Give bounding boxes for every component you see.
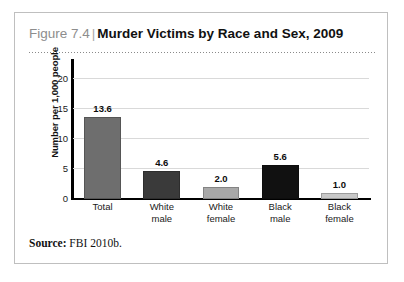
x-tick-label: Blackfemale [310,201,369,224]
title-divider [29,52,375,53]
x-tick-label: Blackmale [251,201,310,224]
bar-group[interactable]: 2.0 [191,59,250,199]
x-tick-label: Whitemale [132,201,191,224]
page-title: Figure 7.4|Murder Victims by Race and Se… [29,25,375,42]
bar[interactable] [262,165,299,199]
figure-header: Figure 7.4|Murder Victims by Race and Se… [29,25,375,42]
bar-group[interactable]: 13.6 [73,59,132,199]
bar-value-label: 4.6 [155,158,168,168]
bar-value-label: 5.6 [274,152,287,162]
bar-value-label: 2.0 [214,174,227,184]
x-axis-labels: TotalWhitemaleWhitefemaleBlackmaleBlackf… [73,201,369,224]
bar-value-label: 1.0 [333,180,346,190]
figure-box: Figure 7.4|Murder Victims by Race and Se… [14,12,388,264]
bar-group[interactable]: 4.6 [132,59,191,199]
y-tick-label: 0 [63,193,68,204]
bar[interactable] [143,171,180,199]
y-tick-label: 5 [63,163,68,174]
source-line: Source: FBI 2010b. [29,237,122,249]
y-tick-label: 15 [57,103,68,114]
source-text: FBI 2010b. [69,237,121,249]
bar-group[interactable]: 5.6 [251,59,310,199]
y-tick-label: 20 [57,73,68,84]
plot-area: 05101520 13.64.62.05.61.0 [73,67,369,199]
x-tick-label: Whitefemale [191,201,250,224]
source-label: Source: [29,237,66,249]
y-tick-label: 10 [57,133,68,144]
bar-group[interactable]: 1.0 [310,59,369,199]
bar[interactable] [203,187,240,199]
bar-series: 13.64.62.05.61.0 [73,59,369,199]
bar[interactable] [84,117,121,199]
bar[interactable] [321,193,358,199]
bar-value-label: 13.6 [93,104,112,114]
bar-chart: Number per 1,000 people 05101520 13.64.6… [29,59,375,224]
x-tick-label: Total [73,201,132,224]
figure-title-text: Murder Victims by Race and Sex, 2009 [97,26,343,41]
